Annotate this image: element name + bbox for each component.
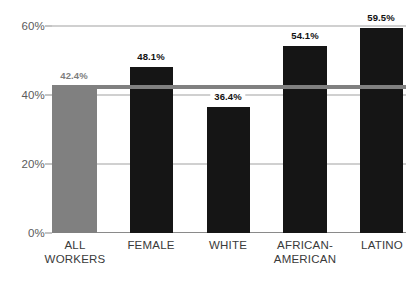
y-axis-label-40: 40% <box>21 89 45 101</box>
plot-area: 60% 40% 20% 0% 42.4% 48.1% 36.4% 54.1% <box>52 26 406 233</box>
gridline-60 <box>52 26 406 27</box>
bar-white <box>207 107 250 233</box>
benchmark-line-all-workers <box>52 85 406 89</box>
y-tick-40 <box>45 95 52 96</box>
y-axis-label-20: 20% <box>21 158 45 170</box>
y-tick-20 <box>45 164 52 165</box>
bar-value-latino: 59.5% <box>367 12 394 23</box>
bar-female <box>130 67 173 233</box>
bar-african-american <box>283 46 327 233</box>
bar-chart: 60% 40% 20% 0% 42.4% 48.1% 36.4% 54.1% <box>0 0 414 286</box>
bar-latino <box>360 28 403 233</box>
bar-all-workers <box>52 87 97 233</box>
y-axis-label-60: 60% <box>21 20 45 32</box>
bar-value-african-american: 54.1% <box>291 30 318 41</box>
category-label-latino: LATINO <box>336 239 414 253</box>
y-axis-label-0: 0% <box>28 227 45 239</box>
y-tick-0 <box>45 233 52 234</box>
bar-value-female: 48.1% <box>137 51 164 62</box>
bar-value-white: 36.4% <box>210 91 245 102</box>
y-tick-60 <box>45 26 52 27</box>
bar-value-all-workers: 42.4% <box>60 70 87 81</box>
